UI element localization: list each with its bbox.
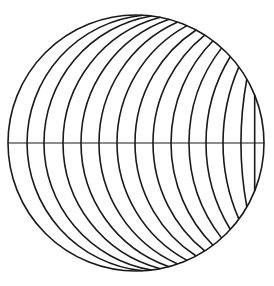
diagram-canvas bbox=[0, 0, 274, 286]
globe-arcs-diagram bbox=[0, 0, 274, 286]
